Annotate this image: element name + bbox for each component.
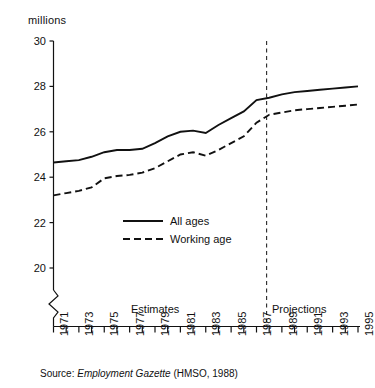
source-suffix: (HMSO, 1988) (173, 368, 237, 379)
source-publication: Employment Gazette (77, 368, 170, 379)
series-line-working-age (54, 105, 359, 196)
source-note: Source: Employment Gazette (HMSO, 1988) (40, 368, 238, 379)
series-line-all-ages (54, 86, 359, 162)
x-tick-marks (54, 327, 359, 333)
source-prefix: Source: (40, 368, 74, 379)
y-axis-break-icon (49, 290, 58, 327)
